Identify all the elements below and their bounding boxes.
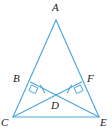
segment-AC <box>13 20 56 117</box>
cevian-CF <box>13 82 82 117</box>
vertex-label-B: B <box>13 73 20 84</box>
right-angle-at-B <box>29 85 38 94</box>
segment-AE <box>56 20 99 117</box>
geometry-figure: A B C D E F <box>0 0 112 140</box>
cevian-EB <box>31 82 100 117</box>
right-angle-at-F <box>74 85 83 94</box>
vertex-label-C: C <box>1 117 8 128</box>
vertex-label-F: F <box>87 73 94 84</box>
vertex-label-E: E <box>100 117 107 128</box>
figure-canvas <box>0 0 112 140</box>
vertex-label-A: A <box>52 2 59 13</box>
vertex-label-D: D <box>51 100 59 111</box>
